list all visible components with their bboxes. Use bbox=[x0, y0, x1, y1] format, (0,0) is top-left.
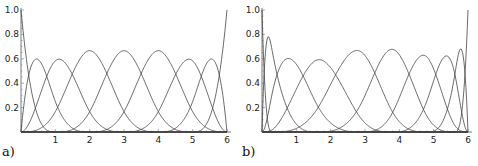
panel-label-b: b) bbox=[242, 144, 255, 159]
basis-curve bbox=[21, 59, 227, 132]
bspline-plot-b: 1234560.20.40.60.81.0 bbox=[239, 0, 478, 166]
basis-curve bbox=[21, 10, 227, 132]
basis-curve bbox=[21, 59, 227, 132]
x-tick-label: 1 bbox=[293, 135, 299, 145]
basis-curve bbox=[21, 10, 227, 132]
y-tick-label: 0.4 bbox=[5, 78, 20, 88]
basis-curve bbox=[262, 37, 468, 132]
x-tick-label: 6 bbox=[465, 135, 471, 145]
x-tick-label: 4 bbox=[155, 135, 161, 145]
y-tick-label: 0.6 bbox=[5, 54, 20, 64]
y-tick-label: 0.6 bbox=[246, 54, 261, 64]
basis-curve bbox=[21, 59, 227, 132]
basis-curve bbox=[262, 56, 468, 132]
bspline-plot-a: 1234560.20.40.60.81.0 bbox=[0, 0, 239, 166]
y-tick-label: 0.8 bbox=[5, 29, 20, 39]
chart-panel-b: 1234560.20.40.60.81.0 b) bbox=[239, 0, 478, 166]
x-tick-label: 5 bbox=[431, 135, 437, 145]
y-tick-label: 1.0 bbox=[246, 5, 261, 15]
y-tick-label: 0.8 bbox=[246, 29, 261, 39]
y-tick-label: 1.0 bbox=[5, 5, 20, 15]
basis-curve bbox=[262, 55, 468, 132]
basis-curve bbox=[21, 59, 227, 132]
x-tick-label: 1 bbox=[52, 135, 58, 145]
y-tick-label: 0.4 bbox=[246, 78, 261, 88]
y-tick-label: 0.2 bbox=[246, 103, 260, 113]
x-tick-label: 4 bbox=[396, 135, 402, 145]
chart-panel-a: 1234560.20.40.60.81.0 a) bbox=[0, 0, 239, 166]
x-tick-label: 2 bbox=[328, 135, 334, 145]
panel-label-a: a) bbox=[2, 144, 15, 159]
x-tick-label: 6 bbox=[224, 135, 230, 145]
x-tick-label: 2 bbox=[87, 135, 93, 145]
y-tick-label: 0.2 bbox=[5, 103, 19, 113]
x-tick-label: 3 bbox=[121, 135, 127, 145]
x-tick-label: 3 bbox=[362, 135, 368, 145]
x-tick-label: 5 bbox=[190, 135, 196, 145]
